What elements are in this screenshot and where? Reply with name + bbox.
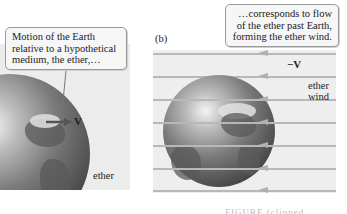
velocity-label: V [74,115,82,127]
ether-wind-label: ether wind [305,80,329,102]
flow-arrowhead-icon [258,119,268,125]
continent-shape [238,145,260,175]
continent-shape [171,145,201,180]
ether-flow-line [153,168,336,170]
ether-flow-line [153,76,336,78]
minus-velocity-label: −V [287,58,301,70]
flow-arrowhead-icon [258,73,268,79]
figure-caption-clipped: FIGURE (clipped, illegible) [225,208,347,214]
ether-flow-line [153,145,336,147]
ether-flow-line [153,53,336,55]
flow-arrowhead-icon [258,165,268,171]
flow-arrowhead-icon [258,50,268,56]
velocity-arrow-head [64,118,72,126]
flow-arrowhead-icon [258,96,268,102]
continent-shape [221,113,256,137]
ether-wind-label-line1: ether [308,80,329,91]
flow-arrowhead-icon [258,187,268,193]
ether-flow-line [153,190,336,192]
ether-flow-line [153,122,336,124]
ether-wind-label-line2: wind [305,91,329,102]
panel-b-label: (b) [155,33,167,44]
callout-earth-motion: Motion of the Earth relative to a hypoth… [5,27,127,70]
panel-b-ether-wind: ether wind [153,50,336,193]
flow-arrowhead-icon [258,142,268,148]
callout-ether-wind: …corresponds to flow of the ether past E… [225,4,339,47]
